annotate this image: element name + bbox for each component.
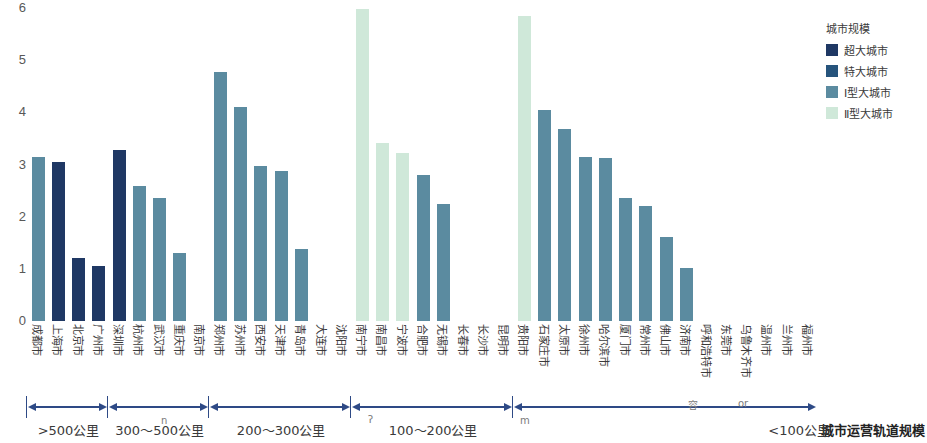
x-axis-tick-label-text: 福州市 (800, 324, 816, 356)
x-axis-tick-label-text: 太原市 (557, 324, 573, 356)
bar-slot (437, 8, 450, 321)
bar[interactable] (356, 9, 369, 321)
x-axis-tick-label: 苏州市 (232, 322, 249, 392)
bar-slot (52, 8, 65, 321)
bar[interactable] (52, 162, 65, 321)
x-axis-tick-label: 西安市 (252, 322, 269, 392)
bar[interactable] (133, 186, 146, 321)
x-axis-tick-label-text: 上海市 (50, 324, 66, 356)
bar-slot (315, 8, 328, 321)
bar[interactable] (295, 249, 308, 321)
bar-chart: 0123456 成都市上海市北京市广州市深圳市杭州市武汉市重庆市南京市郑州市苏州… (0, 0, 927, 443)
legend-title: 城市规模 (826, 20, 926, 36)
x-axis-tick-label-text: 南京市 (192, 324, 208, 356)
x-axis-tick-label: 无锡市 (435, 322, 452, 392)
bar[interactable] (558, 129, 571, 321)
legend-item-ii[interactable]: Ⅱ型大城市 (826, 105, 926, 121)
x-axis-tick-label: 福州市 (799, 322, 816, 392)
bar[interactable] (437, 204, 450, 321)
x-axis-tick-label: 温州市 (759, 322, 776, 392)
bar-slot (801, 8, 814, 321)
bar-slot (720, 8, 733, 321)
x-axis-tick-label: 贵阳市 (516, 322, 533, 392)
x-axis-tick-label-text: 宁波市 (395, 324, 411, 356)
x-axis-tick-label: 宁波市 (394, 322, 411, 392)
bar-slot (781, 8, 794, 321)
x-axis-tick-label-text: 贵阳市 (516, 324, 532, 356)
x-axis-tick-label-text: 昆明市 (496, 324, 512, 356)
bar[interactable] (234, 107, 247, 321)
legend-swatch-icon (826, 86, 838, 98)
bar-slot (72, 8, 85, 321)
x-axis-tick-label-text: 厦门市 (618, 324, 634, 356)
group-label: 200～300公里 (210, 420, 352, 439)
legend-item-i[interactable]: Ⅰ型大城市 (826, 84, 926, 100)
x-axis-tick-label-text: 常州市 (638, 324, 654, 356)
x-axis-tick-label: 合肥市 (415, 322, 432, 392)
x-axis-tick-label: 杭州市 (131, 322, 148, 392)
bar[interactable] (173, 253, 186, 321)
x-axis-tick-label: 东莞市 (718, 322, 735, 392)
x-axis-tick-label-text: 深圳市 (111, 324, 127, 356)
x-axis-tick-label: 乌鲁木齐市 (739, 322, 756, 392)
legend-item-teda[interactable]: 特大城市 (826, 63, 926, 79)
group-label: 100～200公里 (352, 420, 514, 439)
bar[interactable] (254, 166, 267, 321)
x-axis-tick-label: 南京市 (192, 322, 209, 392)
bar[interactable] (538, 110, 551, 321)
x-axis-tick-label: 兰州市 (779, 322, 796, 392)
x-axis-tick-label: 呼和浩特市 (698, 322, 715, 392)
x-axis-tick-label-text: 成都市 (30, 324, 46, 356)
x-axis-tick-label-text: 哈尔滨市 (597, 324, 613, 367)
x-axis-tick-label: 大连市 (313, 322, 330, 392)
x-axis-tick-label-text: 西安市 (253, 324, 269, 356)
bar[interactable] (214, 72, 227, 321)
y-axis-tick: 1 (0, 264, 26, 274)
legend-item-label: 特大城市 (844, 63, 888, 79)
legend-swatch-icon (826, 44, 838, 56)
legend-swatch-icon (826, 107, 838, 119)
x-axis-tick-label-text: 南宁市 (354, 324, 370, 356)
x-axis-tick-label: 北京市 (70, 322, 87, 392)
bar[interactable] (113, 150, 126, 321)
bar[interactable] (619, 198, 632, 321)
x-axis-tick-label-text: 郑州市 (212, 324, 228, 356)
bar[interactable] (275, 171, 288, 321)
bar[interactable] (417, 175, 430, 321)
y-axis-tick: 6 (0, 3, 26, 13)
bar-slot (619, 8, 632, 321)
x-axis-tick-label-text: 合肥市 (415, 324, 431, 356)
x-axis-tick-label-text: 呼和浩特市 (699, 324, 715, 378)
x-axis-tick-label-text: 乌鲁木齐市 (739, 324, 755, 378)
bar-slot (92, 8, 105, 321)
x-axis-tick-label-text: 佛山市 (658, 324, 674, 356)
bar[interactable] (518, 16, 531, 321)
bar[interactable] (72, 258, 85, 321)
bar[interactable] (153, 198, 166, 321)
bar[interactable] (660, 237, 673, 322)
bar-slot (558, 8, 571, 321)
bar[interactable] (639, 206, 652, 321)
x-axis-tick-label: 重庆市 (171, 322, 188, 392)
bar[interactable] (680, 268, 693, 321)
group-range-arrow (35, 406, 100, 408)
legend-item-chaoda[interactable]: 超大城市 (826, 42, 926, 58)
bar-slot (335, 8, 348, 321)
bar[interactable] (396, 153, 409, 321)
bar-slot (417, 8, 430, 321)
bar[interactable] (32, 157, 45, 321)
x-axis-tick-label: 昆明市 (496, 322, 513, 392)
bar-slot (113, 8, 126, 321)
x-axis-tick-label-text: 石家庄市 (537, 324, 553, 367)
x-axis-tick-label: 广州市 (90, 322, 107, 392)
x-axis-tick-label: 厦门市 (617, 322, 634, 392)
legend-item-label: Ⅰ型大城市 (844, 84, 891, 100)
x-axis-tick-label: 长沙市 (475, 322, 492, 392)
bar[interactable] (92, 266, 105, 321)
bar-slot (741, 8, 754, 321)
bar[interactable] (579, 157, 592, 321)
x-axis-tick-label: 太原市 (556, 322, 573, 392)
bar[interactable] (376, 143, 389, 321)
bar[interactable] (599, 158, 612, 321)
scan-artifact: n (161, 415, 167, 426)
